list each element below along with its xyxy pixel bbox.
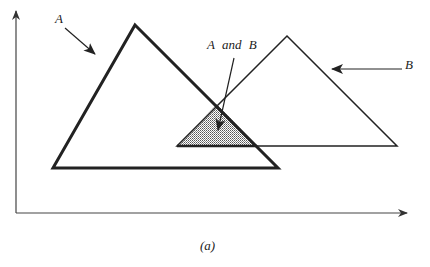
label-set-a: A bbox=[55, 12, 63, 25]
intersection-region bbox=[177, 104, 257, 146]
arrow-to-a bbox=[65, 28, 95, 54]
label-intersection: A and B bbox=[207, 38, 257, 51]
figure-caption: (a) bbox=[200, 239, 215, 252]
label-set-b: B bbox=[405, 58, 413, 71]
